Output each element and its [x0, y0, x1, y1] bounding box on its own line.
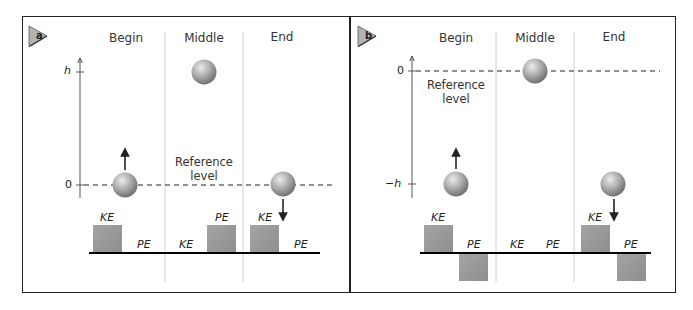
panel-a-ball-begin [113, 173, 138, 198]
panel-b-middle-pe-label: PE [546, 238, 560, 251]
panel-b-bar-end-pe [617, 253, 646, 281]
panel-b-ball-middle [523, 59, 548, 84]
panel-a-ball-end [271, 172, 296, 197]
panel-a-bar-begin-ke [93, 225, 122, 253]
panel-b-middle-ke-label: KE [510, 238, 524, 251]
panel-b-begin-ke-label: KE [431, 211, 445, 224]
panel-b-column-begin: Begin [439, 31, 473, 45]
panel-b-reference-label-line1: Reference [427, 78, 485, 92]
panel-a-reference-label-line1: Reference [175, 155, 233, 169]
panel-b-reference-label-line2: level [427, 92, 485, 106]
panel-b-end-pe-label: PE [624, 238, 638, 251]
panel-a-reference-label-line2: level [175, 169, 233, 183]
panel-a-middle-pe-label: PE [215, 211, 229, 224]
panel-b-bar-begin-ke [424, 225, 453, 253]
panel-b-column-end: End [603, 30, 626, 44]
panel-a-column-middle: Middle [184, 31, 224, 45]
panel-b-reference-label: Reference level [427, 78, 485, 106]
panel-b-badge-label: b [365, 30, 372, 41]
panel-a-middle-ke-label: KE [179, 238, 193, 251]
panel-a-badge-label: a [36, 30, 43, 41]
panel-b-ball-begin [444, 172, 469, 197]
panel-a-begin-pe-label: PE [137, 238, 151, 251]
panel-a-end-ke-label: KE [258, 211, 272, 224]
panel-a-axis-zero-label: 0 [65, 178, 72, 191]
panel-a-end-pe-label: PE [294, 238, 308, 251]
energy-diagram-figure: a Begin Middle End h 0 Reference level K… [0, 0, 693, 310]
panel-b-column-middle: Middle [515, 31, 555, 45]
panel-b-axis-neg-h-label: −h [385, 177, 401, 190]
panel-b-end-ke-label: KE [588, 211, 602, 224]
panel-a-bar-middle-pe [207, 225, 236, 253]
panel-a-reference-label: Reference level [175, 155, 233, 183]
panel-a-ball-middle [192, 60, 217, 85]
panel-b-axis-zero-label: 0 [397, 64, 404, 77]
panel-a-column-begin: Begin [109, 31, 143, 45]
panel-b-begin-pe-label: PE [467, 238, 481, 251]
panel-a-begin-ke-label: KE [100, 211, 114, 224]
panel-b-ball-end [601, 172, 626, 197]
panel-b-bar-end-ke [581, 225, 610, 253]
panel-a-column-end: End [271, 30, 294, 44]
diagram-graphics [0, 0, 693, 310]
panel-a-axis-h-label: h [64, 64, 71, 77]
panel-b-bar-begin-pe [459, 253, 488, 281]
panel-a-bar-end-ke [250, 225, 279, 253]
